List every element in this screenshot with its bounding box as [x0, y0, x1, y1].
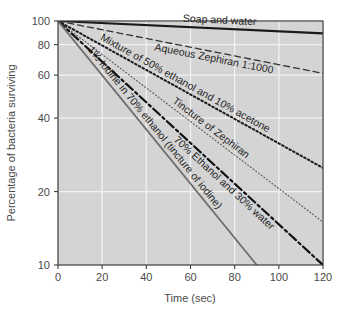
x-tick-label: 80 — [229, 271, 241, 283]
chart-figure: 020406080100120 1020406080100 Time (sec)… — [0, 0, 350, 316]
x-axis-title: Time (sec) — [164, 292, 216, 304]
y-tick-label: 40 — [38, 112, 50, 124]
x-tick-label: 100 — [270, 271, 288, 283]
y-axis-ticks: 1020406080100 — [32, 15, 58, 271]
y-tick-label: 60 — [38, 69, 50, 81]
x-tick-label: 120 — [314, 271, 332, 283]
y-tick-label: 10 — [38, 259, 50, 271]
bacteria-survival-chart: 020406080100120 1020406080100 Time (sec)… — [0, 0, 350, 316]
x-tick-label: 0 — [55, 271, 61, 283]
y-axis-title: Percentage of bacteria surviving — [5, 64, 17, 221]
x-tick-label: 60 — [184, 271, 196, 283]
y-tick-label: 100 — [32, 15, 50, 27]
x-tick-label: 40 — [140, 271, 152, 283]
y-tick-label: 20 — [38, 186, 50, 198]
y-tick-label: 80 — [38, 39, 50, 51]
x-tick-label: 20 — [96, 271, 108, 283]
x-axis-ticks: 020406080100120 — [55, 265, 332, 283]
